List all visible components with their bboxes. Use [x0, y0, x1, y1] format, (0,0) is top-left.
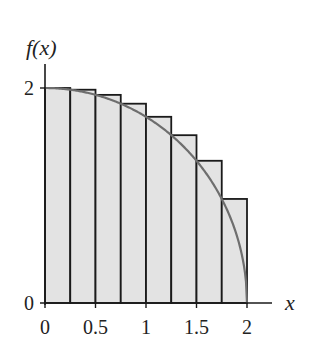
x-tick-labels: 00.511.52: [40, 316, 252, 338]
y-tick-label-0: 0: [24, 292, 34, 314]
x-axis-label: x: [284, 290, 295, 315]
x-tick-label: 0.5: [83, 316, 108, 338]
bar-group: [45, 88, 247, 303]
bar: [121, 104, 146, 303]
y-axis-label: f(x): [26, 35, 57, 60]
x-tick-label: 1.5: [184, 316, 209, 338]
bar: [146, 117, 171, 303]
bar: [96, 95, 121, 303]
x-tick-label: 2: [242, 316, 252, 338]
x-tick-label: 0: [40, 316, 50, 338]
bar: [222, 199, 247, 303]
x-tick-label: 1: [141, 316, 151, 338]
bar: [70, 90, 95, 303]
bar: [171, 135, 196, 303]
y-tick-label-2: 2: [24, 77, 34, 99]
riemann-sum-chart: f(x) 2 0 x 00.511.52: [0, 0, 314, 360]
bar: [197, 161, 222, 303]
bar: [45, 88, 70, 303]
